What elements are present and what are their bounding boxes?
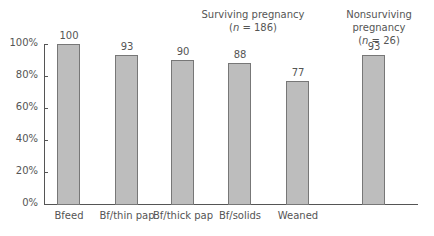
y-tick <box>44 76 48 77</box>
bar <box>286 81 309 205</box>
bar <box>171 60 194 205</box>
y-tick-label: 60% <box>0 101 38 112</box>
bar <box>228 63 251 205</box>
y-tick-label: 20% <box>0 165 38 176</box>
x-tick-label: Weaned <box>258 210 338 221</box>
y-tick-label: 100% <box>0 37 38 48</box>
y-tick <box>44 172 48 173</box>
y-tick-label: 40% <box>0 133 38 144</box>
value-label: 77 <box>278 67 318 78</box>
y-tick-label: 80% <box>0 69 38 80</box>
y-tick <box>44 204 48 205</box>
y-tick <box>44 108 48 109</box>
value-label: 88 <box>220 49 260 60</box>
y-tick <box>44 140 48 141</box>
group-title-surviving: Surviving pregnancy (n = 186) <box>183 8 323 34</box>
bar-chart: 0%20%40%60%80%100% 100Bfeed93Bf/thin pap… <box>0 0 434 236</box>
bar <box>115 55 138 205</box>
bar <box>362 55 385 205</box>
value-label: 90 <box>163 46 203 57</box>
y-axis <box>44 44 45 205</box>
group-name: Nonsurviving pregnancy <box>324 8 434 34</box>
bar <box>57 44 80 205</box>
group-title-nonsurviving: Nonsurviving pregnancy (n = 26) <box>324 8 434 47</box>
group-n-label: (n = 186) <box>183 21 323 34</box>
value-label: 100 <box>49 30 89 41</box>
y-tick <box>44 44 48 45</box>
group-n-label: (n = 26) <box>324 34 434 47</box>
y-tick-label: 0% <box>0 197 38 208</box>
value-label: 93 <box>107 41 147 52</box>
group-name: Surviving pregnancy <box>183 8 323 21</box>
